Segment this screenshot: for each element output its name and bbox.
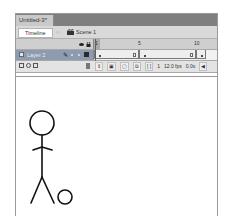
- edit-multiple-frames-button[interactable]: ⧉: [133, 62, 141, 71]
- scroll-left-button[interactable]: ◀: [199, 62, 207, 71]
- ball: [58, 190, 72, 204]
- frame-ruler[interactable]: 1 5 10: [93, 39, 217, 49]
- layer-frames[interactable]: [93, 50, 217, 60]
- eye-icon[interactable]: [79, 42, 84, 47]
- keyframe[interactable]: [144, 55, 146, 57]
- playhead-line: [95, 39, 96, 61]
- stage-drawing: [16, 77, 217, 218]
- trash-icon[interactable]: [86, 63, 90, 69]
- keyframe[interactable]: [99, 55, 101, 57]
- outline-color-swatch[interactable]: [84, 52, 89, 57]
- scene-bar: Timeline ⇦ Scene 1: [16, 26, 217, 39]
- stick-figure: [30, 111, 54, 203]
- figure-head: [30, 111, 54, 135]
- stage[interactable]: [16, 76, 217, 218]
- layer-name-cell[interactable]: Layer 2 ✎: [16, 50, 93, 60]
- flash-window: Untitled-3* Timeline ⇦ Scene 1 1 5 10 La…: [15, 13, 218, 216]
- insert-layer-icon[interactable]: [19, 63, 24, 68]
- back-arrow-icon[interactable]: ⇦: [56, 29, 64, 35]
- document-tab[interactable]: Untitled-3*: [16, 15, 54, 26]
- visibility-dot[interactable]: [71, 54, 73, 56]
- timeline-button[interactable]: Timeline: [18, 28, 53, 38]
- motion-guide-icon[interactable]: [26, 63, 31, 68]
- layer-icon: [19, 52, 24, 57]
- end-frame-marker: [190, 53, 193, 57]
- ruler-number: 10: [194, 40, 200, 46]
- figure-right-arm: [42, 147, 52, 150]
- modify-onion-markers-button[interactable]: [ ]: [145, 62, 153, 71]
- end-frame-marker: [133, 53, 136, 57]
- figure-right-leg: [42, 177, 54, 203]
- pencil-icon: ✎: [63, 51, 68, 59]
- figure-left-arm: [33, 147, 42, 150]
- frame-span[interactable]: [196, 50, 206, 59]
- center-frame-button[interactable]: ⇕: [95, 62, 103, 71]
- layer-row[interactable]: Layer 2 ✎: [16, 50, 217, 61]
- onion-skin-button[interactable]: ▣: [107, 62, 116, 71]
- scene-label[interactable]: Scene 1: [76, 28, 96, 36]
- keyframe[interactable]: [201, 55, 203, 57]
- onion-outlines-button[interactable]: ▢: [120, 62, 129, 71]
- elapsed-time: 0.0s: [186, 63, 195, 70]
- timeline-controls: ⇕ ▣ ▢ ⧉ [ ] 1 12.0 fps 0.0s ◀: [16, 61, 217, 73]
- layer-name[interactable]: Layer 2: [27, 51, 45, 59]
- figure-left-leg: [31, 177, 42, 203]
- frame-rate: 12.0 fps: [164, 63, 182, 70]
- lock-dot[interactable]: [78, 54, 80, 56]
- current-frame: 1: [157, 63, 160, 70]
- timeline-header: 1 5 10: [16, 39, 217, 50]
- document-tab-bar: Untitled-3*: [16, 14, 217, 26]
- frame-span[interactable]: [139, 50, 196, 59]
- frame-span[interactable]: [94, 50, 139, 59]
- lock-icon[interactable]: [86, 42, 91, 47]
- insert-folder-icon[interactable]: [33, 63, 38, 68]
- clapperboard-icon: [67, 29, 74, 35]
- ruler-number: 5: [138, 40, 141, 46]
